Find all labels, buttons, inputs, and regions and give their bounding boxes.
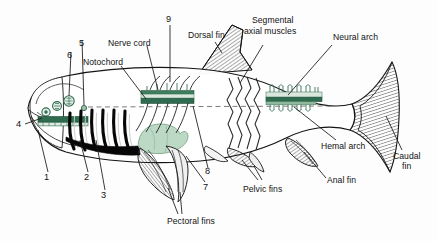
label-number-3: 3 <box>101 190 106 200</box>
label-number-4: 4 <box>16 119 21 129</box>
label-hemal-arch: Hemal arch <box>321 141 365 151</box>
label-number-1: 1 <box>44 172 49 182</box>
label-number-9: 9 <box>166 14 171 24</box>
label-number-8: 8 <box>205 166 210 176</box>
label-caudal-fin-line2: fin <box>402 161 411 171</box>
fish-body-outline <box>28 67 355 162</box>
label-caudal-fin-line1: Caudal <box>393 151 421 161</box>
caudal-fin-shape <box>350 62 399 172</box>
label-anal-fin: Anal fin <box>327 175 356 185</box>
label-neural-arch: Neural arch <box>333 32 378 42</box>
anal-fin-shape <box>286 138 318 166</box>
label-segmental-axial-muscles-line1: Segmental <box>252 15 294 25</box>
label-notochord: Notochord <box>83 57 123 67</box>
label-nerve-cord: Nerve cord <box>108 38 151 48</box>
fish-anatomy-diagram: Nerve cord Notochord Dorsal fin Segmenta… <box>0 0 437 241</box>
label-pectoral-fins: Pectoral fins <box>167 216 215 226</box>
label-segmental-axial-muscles-line2: axial muscles <box>244 26 296 36</box>
label-pelvic-fins: Pelvic fins <box>243 184 282 194</box>
label-number-6: 6 <box>67 50 72 60</box>
label-number-2: 2 <box>84 172 89 182</box>
label-number-7: 7 <box>203 182 208 192</box>
label-dorsal-fin: Dorsal fin <box>188 30 225 40</box>
label-number-5: 5 <box>79 38 84 48</box>
